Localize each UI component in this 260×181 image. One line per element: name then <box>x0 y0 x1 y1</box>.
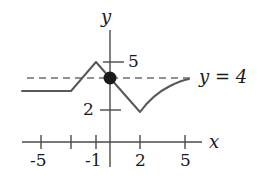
y-axis-label: y <box>101 8 111 26</box>
x-tick-label-minus1: -1 <box>85 152 102 169</box>
y-tick-label-5: 5 <box>128 53 139 70</box>
point-marker-0-4 <box>104 72 117 85</box>
x-tick-label-5: 5 <box>180 152 191 169</box>
x-tick-label-2: 2 <box>135 152 146 169</box>
y-tick-label-2: 2 <box>83 101 94 118</box>
x-tick-label-minus5: -5 <box>30 152 47 169</box>
graph-figure: y x 5 2 -5 -1 2 5 y = 4 <box>0 0 260 181</box>
asymptote-label: y = 4 <box>199 68 247 86</box>
x-axis-label: x <box>209 133 219 151</box>
function-curve <box>22 62 189 112</box>
